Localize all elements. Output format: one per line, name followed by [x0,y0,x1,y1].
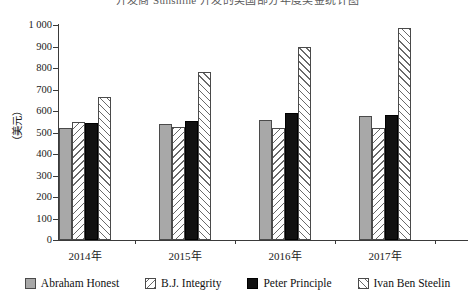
bar [398,28,411,240]
x-axis-line [58,240,468,241]
chart-title-clipped: 开发商 Sunshine 开发的美国部分年度奖金统计图 [0,0,475,7]
bar [259,120,272,240]
x-axis-tick [335,240,336,244]
y-axis-tick [53,90,59,91]
y-axis-tick-label: 900 [8,42,52,52]
legend-swatch-icon [25,278,36,289]
legend-swatch-icon [145,278,156,289]
y-axis-tick-label: 400 [8,149,52,159]
chart-container: 开发商 Sunshine 开发的美国部分年度奖金统计图 010020030040… [0,0,475,302]
legend-swatch-icon [247,278,258,289]
y-axis-tick [53,197,59,198]
x-axis-tick [435,240,436,244]
bar [59,128,72,240]
x-axis-tick-label: 2017年 [340,247,430,263]
bar-group [159,25,211,240]
y-axis-tick-label: 1 000 [8,20,52,30]
bar [98,97,111,240]
legend-item[interactable]: Abraham Honest [25,277,119,289]
bar [285,113,298,240]
bar [385,115,398,240]
y-axis-tick-label: 100 [8,214,52,224]
bar [198,72,211,240]
legend-swatch-icon [358,278,369,289]
bar [272,128,285,240]
bar-group [259,25,311,240]
legend-item[interactable]: Ivan Ben Steelin [358,277,451,289]
legend-label: Ivan Ben Steelin [374,277,451,289]
chart-legend: Abraham HonestB.J. IntegrityPeter Princi… [0,272,475,294]
y-axis-tick [53,47,59,48]
y-axis-tick [53,68,59,69]
y-axis-tick [53,154,59,155]
y-axis-tick [53,111,59,112]
y-axis-title: （美元） [9,106,24,146]
x-axis-tick-label: 2014年 [40,247,130,263]
y-axis-tick-label: 700 [8,85,52,95]
plot-area [59,25,468,240]
bar [185,121,198,240]
legend-label: Abraham Honest [41,277,119,289]
bar [298,47,311,241]
y-axis-tick [53,240,59,241]
y-axis-tick-label: 300 [8,171,52,181]
bar [72,122,85,240]
y-axis-tick-label: 200 [8,192,52,202]
y-axis-tick-label: 800 [8,63,52,73]
legend-label: B.J. Integrity [161,277,221,289]
x-axis-tick [235,240,236,244]
bar [85,123,98,240]
bar-group [59,25,111,240]
bar [372,128,385,240]
bar [359,116,372,240]
legend-item[interactable]: B.J. Integrity [145,277,221,289]
y-axis-tick [53,133,59,134]
bar [159,124,172,240]
x-axis-tick [135,240,136,244]
y-axis-tick [53,176,59,177]
y-axis-tick-label: 0 [8,235,52,245]
y-axis-tick [53,219,59,220]
bar [172,127,185,240]
legend-label: Peter Principle [263,277,331,289]
x-axis-tick-label: 2015年 [140,247,230,263]
x-axis-tick-label: 2016年 [240,247,330,263]
chart-title: 开发商 Sunshine 开发的美国部分年度奖金统计图 [0,0,475,7]
legend-item[interactable]: Peter Principle [247,277,331,289]
y-axis-tick [53,25,59,26]
bar-group [359,25,411,240]
